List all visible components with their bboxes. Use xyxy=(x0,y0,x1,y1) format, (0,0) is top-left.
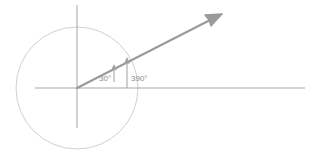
angle-30-indicator-icon xyxy=(111,64,117,82)
angle-label-390: 390° xyxy=(131,74,148,83)
angle-390-indicator-icon xyxy=(124,57,130,88)
terminal-ray-arrowhead-icon xyxy=(205,14,222,26)
diagram-svg: 30° 390° xyxy=(0,0,315,154)
angle-label-30: 30° xyxy=(99,74,111,83)
angle-diagram-canvas: 30° 390° xyxy=(0,0,315,154)
